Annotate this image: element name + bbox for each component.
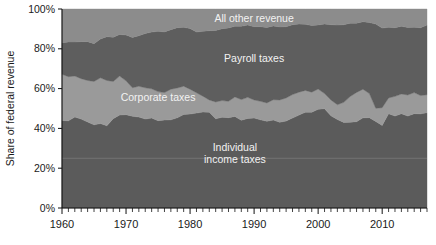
band-label-1: Payroll taxes bbox=[224, 52, 284, 64]
x-tick-label-1960: 1960 bbox=[50, 218, 74, 230]
x-tick-label-2010: 2010 bbox=[370, 218, 394, 230]
y-tick-label-60: 60% bbox=[34, 82, 55, 94]
chart-figure: All other revenuePayroll taxesCorporate … bbox=[0, 0, 436, 245]
y-axis-title: Share of federal revenue bbox=[4, 51, 16, 167]
y-tick-label-40: 40% bbox=[34, 122, 55, 134]
x-tick-label-1980: 1980 bbox=[178, 218, 202, 230]
band-label-2: Corporate taxes bbox=[121, 91, 196, 103]
stacked-area-chart: All other revenuePayroll taxesCorporate … bbox=[0, 0, 436, 245]
x-tick-label-2000: 2000 bbox=[306, 218, 330, 230]
y-tick-label-100: 100% bbox=[28, 3, 55, 15]
x-tick-label-1970: 1970 bbox=[114, 218, 138, 230]
band-label-3: Individual bbox=[213, 141, 257, 153]
y-tick-label-0: 0% bbox=[40, 202, 55, 214]
y-tick-label-80: 80% bbox=[34, 42, 55, 54]
band-label-0: All other revenue bbox=[214, 12, 294, 24]
x-tick-label-1990: 1990 bbox=[242, 218, 266, 230]
band-label-4: income taxes bbox=[204, 153, 266, 165]
y-tick-label-20: 20% bbox=[34, 162, 55, 174]
